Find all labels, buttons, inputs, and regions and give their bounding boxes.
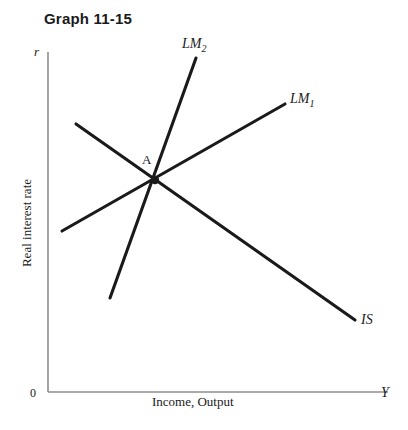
equilibrium-point-label: A [142,152,151,168]
lm1-label-subscript: 1 [309,98,314,109]
x-axis-title: Income, Output [152,394,234,410]
is-curve-label: IS [361,312,373,328]
y-axis-title: Real interest rate [19,163,35,283]
y-axis-tip-label: r [34,44,39,60]
graph-figure: Graph 11-15 r 0 Y Income, Output Real in… [0,0,408,430]
lm1-curve-label: LM1 [290,91,315,109]
lm2-label-text: LM [182,36,201,51]
plot-canvas [0,0,408,430]
lm2-label-subscript: 2 [201,43,206,54]
is-curve [76,124,355,320]
x-axis-tip-label: Y [381,385,389,401]
lm2-curve-label: LM2 [182,36,207,54]
equilibrium-point-marker [151,176,159,184]
lm1-label-text: LM [290,91,309,106]
origin-label: 0 [30,386,36,401]
